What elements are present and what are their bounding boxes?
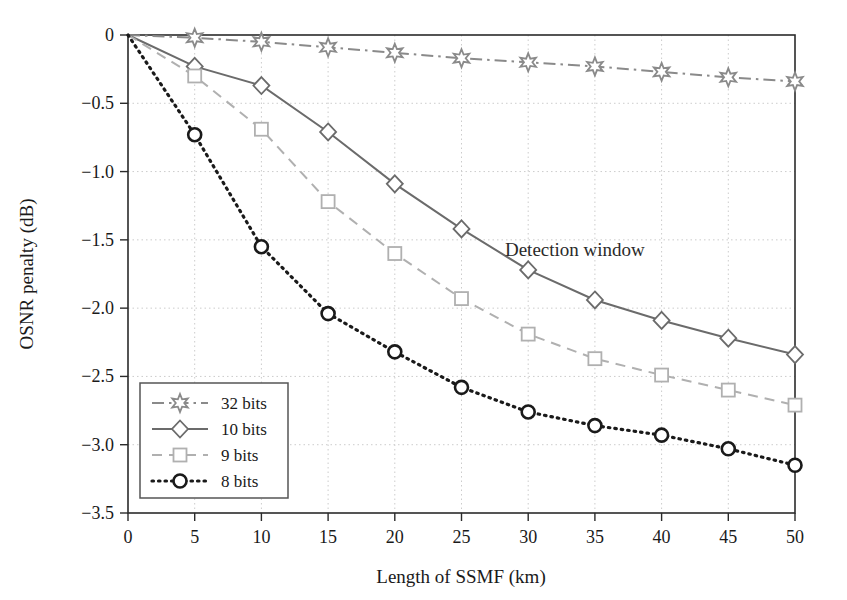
chart-annotations: Detection window bbox=[505, 239, 645, 260]
osnr-penalty-line-chart: 05101520253035404550 0−0.5−1.0−1.5−2.0−2… bbox=[0, 0, 847, 600]
data-point-square bbox=[522, 328, 535, 341]
data-point-square bbox=[588, 352, 601, 365]
y-tick-label: −1.5 bbox=[81, 230, 114, 250]
data-point-circle bbox=[522, 405, 535, 418]
data-point-circle bbox=[722, 442, 735, 455]
y-tick-label: 0 bbox=[105, 25, 114, 45]
legend-label: 32 bits bbox=[221, 394, 267, 413]
data-point-circle bbox=[789, 459, 802, 472]
data-point-square bbox=[655, 369, 668, 382]
annotation-detection-window: Detection window bbox=[505, 239, 645, 260]
legend-label: 10 bits bbox=[221, 420, 267, 439]
chart-background bbox=[0, 0, 847, 600]
data-point-square bbox=[322, 195, 335, 208]
x-tick-label: 25 bbox=[453, 527, 471, 547]
x-tick-label: 45 bbox=[719, 527, 737, 547]
data-point-square bbox=[255, 123, 268, 136]
legend-label: 8 bits bbox=[221, 472, 258, 491]
data-point-square bbox=[188, 69, 201, 82]
y-tick-label: −3.5 bbox=[81, 503, 114, 523]
y-tick-label: −1.0 bbox=[81, 162, 114, 182]
x-tick-label: 40 bbox=[653, 527, 671, 547]
x-tick-label: 10 bbox=[252, 527, 270, 547]
data-point-square bbox=[789, 399, 802, 412]
data-point-square bbox=[722, 384, 735, 397]
x-tick-label: 30 bbox=[519, 527, 537, 547]
chart-legend[interactable]: 32 bits10 bits9 bits8 bits bbox=[140, 383, 288, 498]
data-point-circle bbox=[388, 345, 401, 358]
chart-figure: 05101520253035404550 0−0.5−1.0−1.5−2.0−2… bbox=[0, 0, 847, 600]
x-tick-label: 20 bbox=[386, 527, 404, 547]
data-point-square bbox=[455, 292, 468, 305]
data-point-circle bbox=[255, 240, 268, 253]
y-tick-label: −3.0 bbox=[81, 435, 114, 455]
x-tick-label: 50 bbox=[786, 527, 804, 547]
x-tick-label: 35 bbox=[586, 527, 604, 547]
data-point-circle bbox=[322, 307, 335, 320]
y-tick-label: −2.0 bbox=[81, 298, 114, 318]
y-tick-label: −2.5 bbox=[81, 366, 114, 386]
data-point-circle bbox=[188, 128, 201, 141]
legend-label: 9 bits bbox=[221, 446, 258, 465]
x-axis-title: Length of SSMF (km) bbox=[376, 566, 545, 588]
x-tick-label: 15 bbox=[319, 527, 337, 547]
data-point-circle bbox=[655, 429, 668, 442]
data-point-square bbox=[388, 247, 401, 260]
data-point-circle bbox=[455, 381, 468, 394]
data-point-circle bbox=[174, 475, 187, 488]
x-tick-label: 0 bbox=[124, 527, 133, 547]
y-axis-title: OSNR penalty (dB) bbox=[16, 199, 38, 350]
data-point-square bbox=[174, 449, 187, 462]
y-tick-label: −0.5 bbox=[81, 93, 114, 113]
data-point-circle bbox=[588, 419, 601, 432]
x-tick-label: 5 bbox=[190, 527, 199, 547]
